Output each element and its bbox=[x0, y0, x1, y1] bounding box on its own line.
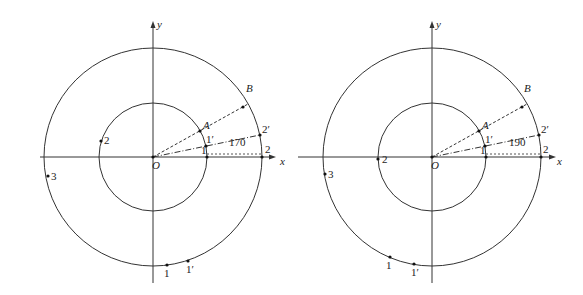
figure-left-points bbox=[46, 105, 263, 266]
label-A: A bbox=[202, 119, 210, 131]
point-2-left bbox=[99, 139, 102, 142]
angle-label: 170 bbox=[229, 136, 246, 148]
label-3: 3 bbox=[51, 170, 57, 182]
label-2: 2 bbox=[265, 143, 271, 155]
x-axis-arrow-icon bbox=[549, 155, 556, 160]
point-2 bbox=[539, 155, 542, 158]
point-2-left bbox=[376, 157, 379, 160]
figure-right bbox=[298, 21, 556, 283]
figure-left bbox=[40, 21, 276, 283]
figure-right-labels: x y O A B 1′ 2′ 1 2 190 2 3 1 1′ bbox=[328, 18, 562, 278]
angle-label: 190 bbox=[509, 136, 526, 148]
label-1prime: 1′ bbox=[485, 133, 493, 145]
origin-label: O bbox=[431, 159, 439, 171]
point-3 bbox=[323, 172, 326, 175]
point-B bbox=[241, 105, 244, 108]
point-A bbox=[198, 129, 201, 132]
label-1prime: 1′ bbox=[206, 133, 214, 145]
label-3: 3 bbox=[328, 168, 334, 180]
y-axis-label: y bbox=[435, 18, 441, 30]
label-2: 2 bbox=[543, 143, 549, 155]
label-2prime: 2′ bbox=[541, 123, 549, 135]
point-2 bbox=[260, 155, 263, 158]
label-2prime: 2′ bbox=[262, 123, 270, 135]
y-axis-arrow-icon bbox=[151, 21, 156, 28]
label-2-left: 2 bbox=[104, 134, 110, 146]
point-B bbox=[520, 105, 523, 108]
label-A: A bbox=[481, 119, 489, 131]
figure-right-points bbox=[323, 105, 542, 265]
point-3 bbox=[46, 174, 49, 177]
origin-label: O bbox=[152, 159, 160, 171]
label-2-left: 2 bbox=[382, 153, 388, 165]
y-axis-label: y bbox=[156, 18, 162, 30]
label-B: B bbox=[246, 82, 253, 94]
x-axis-label: x bbox=[556, 155, 562, 167]
label-1-bottom: 1 bbox=[164, 267, 170, 279]
label-1prime-bottom: 1′ bbox=[186, 263, 194, 275]
label-1: 1 bbox=[480, 144, 486, 156]
x-axis-label: x bbox=[279, 155, 285, 167]
label-1prime-bottom: 1′ bbox=[411, 266, 419, 278]
x-axis-arrow-icon bbox=[269, 155, 276, 160]
label-1: 1 bbox=[201, 144, 207, 156]
label-B: B bbox=[524, 82, 531, 94]
point-A bbox=[477, 129, 480, 132]
y-axis-arrow-icon bbox=[430, 21, 435, 28]
label-1-bottom: 1 bbox=[386, 259, 392, 271]
diagram-canvas: x y O A B 1′ 2′ 1 2 170 2 3 1 1′ bbox=[0, 0, 583, 295]
